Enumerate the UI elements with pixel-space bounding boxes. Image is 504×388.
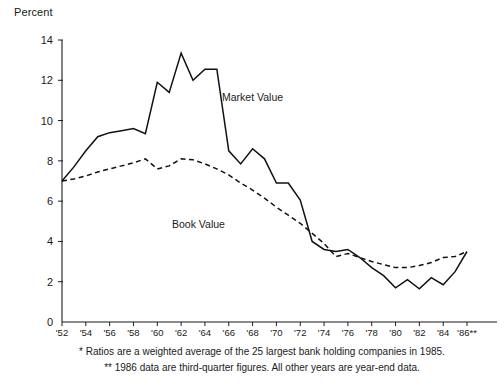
- y-tick-label: 6: [47, 195, 53, 207]
- x-tick-label: '56: [103, 327, 115, 338]
- x-tick-label: '72: [294, 327, 306, 338]
- x-axis: '52'54'56'58'60'62'64'66'68'70'72'74'76'…: [56, 322, 497, 338]
- series-label-market-value: Market Value: [222, 91, 283, 103]
- y-tick-label: 12: [41, 74, 53, 86]
- series-line-book-value: [62, 159, 467, 268]
- y-tick-label: 14: [41, 34, 53, 46]
- x-tick-label: '60: [151, 327, 163, 338]
- y-tick-label: 8: [47, 155, 53, 167]
- x-tick-label: '64: [199, 327, 211, 338]
- y-tick-label: 0: [47, 316, 53, 328]
- x-tick-label: '54: [80, 327, 92, 338]
- footnote-line: ** 1986 data are third-quarter figures. …: [104, 362, 420, 373]
- x-tick-label: '84: [437, 327, 449, 338]
- data-series-group: [62, 53, 467, 289]
- y-axis: 02468101214: [41, 34, 63, 328]
- line-chart-canvas: 02468101214 '52'54'56'58'60'62'64'66'68'…: [0, 0, 504, 388]
- x-tick-label: '66: [223, 327, 235, 338]
- x-tick-label: '70: [270, 327, 282, 338]
- footnote-line: * Ratios are a weighted average of the 2…: [79, 346, 445, 357]
- x-tick-label: '52: [56, 327, 68, 338]
- x-tick-label: '58: [127, 327, 139, 338]
- x-tick-label: '74: [318, 327, 330, 338]
- x-tick-label: '78: [366, 327, 378, 338]
- x-tick-label: '86**: [457, 327, 477, 338]
- series-label-book-value: Book Value: [172, 218, 225, 230]
- series-line-market-value: [62, 53, 467, 289]
- x-tick-label: '76: [342, 327, 354, 338]
- series-annotations: Market ValueBook Value: [172, 91, 283, 230]
- y-axis-title: Percent: [14, 6, 53, 18]
- x-tick-label: '62: [175, 327, 187, 338]
- y-tick-label: 2: [47, 276, 53, 288]
- footnotes: * Ratios are a weighted average of the 2…: [79, 346, 445, 373]
- y-tick-label: 10: [41, 115, 53, 127]
- chart-figure: Percent 02468101214 '52'54'56'58'60'62'6…: [0, 0, 504, 388]
- x-tick-label: '80: [389, 327, 401, 338]
- x-tick-label: '82: [413, 327, 425, 338]
- y-tick-label: 4: [47, 235, 53, 247]
- x-tick-label: '68: [246, 327, 258, 338]
